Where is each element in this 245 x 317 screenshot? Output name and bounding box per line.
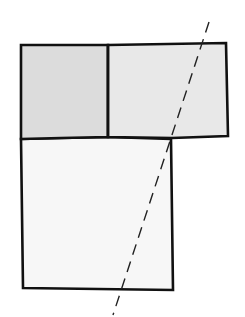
bottom-panel (21, 137, 173, 290)
diagram-svg (0, 0, 245, 317)
top-right-panel (108, 43, 228, 138)
top-left-panel (21, 45, 108, 139)
fold-diagram (0, 0, 245, 317)
